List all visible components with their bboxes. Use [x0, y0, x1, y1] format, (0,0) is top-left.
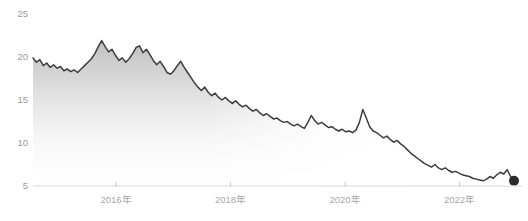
x-tick-label: 2016年 — [100, 194, 131, 205]
area-fade-mask — [33, 0, 516, 186]
end-point-marker — [509, 176, 519, 186]
y-tick-label: 25 — [17, 8, 28, 19]
y-tick-label: 15 — [17, 94, 28, 105]
y-tick-label: 20 — [17, 51, 28, 62]
x-axis-tick-labels: 2016年 2018年 2020年 2022年 — [100, 194, 475, 205]
plot-area — [33, 0, 519, 186]
x-tick-label: 2022年 — [444, 194, 475, 205]
y-tick-label: 10 — [17, 137, 28, 148]
x-tick-label: 2020年 — [330, 194, 361, 205]
chart-canvas: 25 20 15 10 5 2016年 2018年 2020年 2022年 — [0, 0, 528, 221]
x-tick-label: 2018年 — [215, 194, 246, 205]
y-axis-tick-labels: 25 20 15 10 5 — [17, 8, 28, 191]
y-tick-label: 5 — [23, 180, 28, 191]
stock-price-area-chart: 25 20 15 10 5 2016年 2018年 2020年 2022年 — [0, 0, 528, 221]
